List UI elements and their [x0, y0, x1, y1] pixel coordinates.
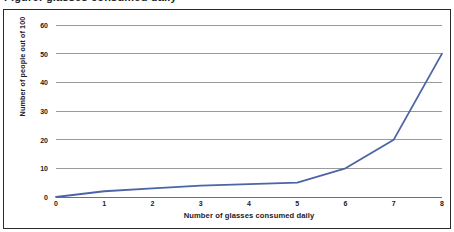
y-tick-label: 30 [26, 108, 48, 115]
y-tick-label: 50 [26, 50, 48, 57]
line-chart-svg [4, 10, 450, 228]
chart-card: Number of people out of 100 Number of gl… [3, 9, 451, 229]
x-tick-label: 4 [240, 200, 258, 207]
x-tick-label: 2 [144, 200, 162, 207]
y-tick-label: 20 [26, 136, 48, 143]
x-tick-label: 0 [47, 200, 65, 207]
x-tick-label: 6 [337, 200, 355, 207]
plot-area: Number of people out of 100 Number of gl… [4, 10, 450, 228]
x-tick-label: 7 [385, 200, 403, 207]
x-tick-label: 1 [95, 200, 113, 207]
y-tick-label: 40 [26, 79, 48, 86]
y-tick-label: 0 [26, 194, 48, 201]
x-tick-label: 3 [192, 200, 210, 207]
caption-sliver: Figure: glasses consumed daily [0, 0, 454, 8]
x-tick-label: 5 [288, 200, 306, 207]
y-tick-label: 60 [26, 22, 48, 29]
y-tick-label: 10 [26, 165, 48, 172]
caption-text: Figure: glasses consumed daily [4, 0, 177, 3]
chart-page: Figure: glasses consumed daily Number of… [0, 0, 454, 232]
x-tick-label: 8 [433, 200, 451, 207]
